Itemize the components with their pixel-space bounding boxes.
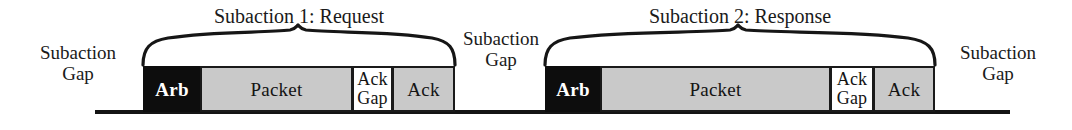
subaction-gap-middle-line2: Gap [441, 49, 561, 70]
subaction-gap-left-line2: Gap [18, 63, 138, 84]
ack-gap-1-line2: Gap [357, 89, 388, 108]
subaction-gap-label-right: Subaction Gap [938, 42, 1058, 85]
ack-gap-2-line2: Gap [837, 89, 868, 108]
subaction-timing-diagram: Subaction 1: Request Subaction 2: Respon… [0, 0, 1072, 130]
ack-gap-2-line1: Ack [837, 70, 868, 89]
brace-title-subaction-1: Subaction 1: Request [143, 6, 455, 26]
subaction-gap-middle-line1: Subaction [463, 28, 539, 49]
block-packet-subaction-1: Packet [200, 66, 353, 112]
block-arb-subaction-2: Arb [545, 66, 601, 112]
block-packet-subaction-2: Packet [600, 66, 831, 112]
subaction-gap-label-left: Subaction Gap [18, 42, 138, 85]
block-arb-subaction-1: Arb [143, 66, 201, 112]
subaction-gap-right-line1: Subaction [960, 42, 1036, 63]
brace-title-subaction-2: Subaction 2: Response [545, 6, 935, 26]
block-ack-subaction-2: Ack [873, 66, 935, 112]
subaction-gap-right-line2: Gap [938, 63, 1058, 84]
subaction-gap-label-middle: Subaction Gap [441, 28, 561, 71]
block-ack-subaction-1: Ack [392, 66, 455, 112]
block-ack-gap-subaction-1: Ack Gap [352, 66, 393, 112]
brace-subaction-2 [545, 25, 935, 65]
brace-subaction-1 [143, 25, 455, 65]
subaction-gap-left-line1: Subaction [40, 42, 116, 63]
ack-gap-1-line1: Ack [357, 70, 388, 89]
block-ack-gap-subaction-2: Ack Gap [830, 66, 874, 112]
